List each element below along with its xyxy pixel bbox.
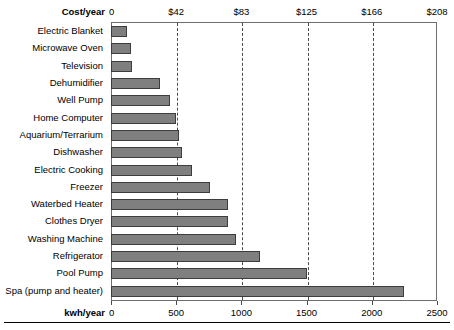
category-label: Spa (pump and heater): [0, 281, 107, 298]
top-tick-label: $83: [233, 6, 249, 17]
table-row: [112, 109, 436, 126]
top-tick-label: $208: [426, 6, 447, 17]
bar: [111, 147, 182, 158]
bottom-tick-label: 1000: [231, 307, 252, 318]
category-label: Microwave Oven: [0, 39, 107, 56]
category-label: Electric Cooking: [0, 160, 107, 177]
bottom-tick-label: 0: [109, 307, 114, 318]
bar: [111, 130, 179, 141]
table-row: [112, 282, 436, 299]
bottom-tickmark: [307, 301, 308, 305]
top-tick-label: 0: [109, 6, 114, 17]
category-label: Electric Blanket: [0, 22, 107, 39]
top-tick-label: $125: [296, 6, 317, 17]
table-row: [112, 40, 436, 57]
bottom-tickmark: [437, 301, 438, 305]
bar: [111, 113, 176, 124]
category-axis-labels: Electric BlanketMicrowave OvenTelevision…: [0, 22, 107, 301]
table-row: [112, 58, 436, 75]
table-row: [112, 248, 436, 265]
bottom-tickmark: [176, 301, 177, 305]
category-label: Dehumidifier: [0, 74, 107, 91]
bottom-tick-label: 2000: [361, 307, 382, 318]
bar: [111, 165, 192, 176]
bottom-tickmark: [241, 301, 242, 305]
bar: [111, 43, 131, 54]
table-row: [112, 196, 436, 213]
category-label: Aquarium/Terrarium: [0, 126, 107, 143]
category-label: Dishwasher: [0, 143, 107, 160]
table-row: [112, 231, 436, 248]
bar-rows: [112, 23, 436, 300]
bottom-tick-label: 500: [168, 307, 184, 318]
category-label: Freezer: [0, 178, 107, 195]
category-label: Pool Pump: [0, 264, 107, 281]
bar: [111, 78, 160, 89]
footer-divider: [4, 322, 450, 323]
bar: [111, 234, 236, 245]
table-row: [112, 161, 436, 178]
bottom-axis-label: kwh/year: [0, 307, 105, 318]
bar: [111, 95, 170, 106]
category-label: Waterbed Heater: [0, 195, 107, 212]
bar: [111, 182, 210, 193]
category-label: Refrigerator: [0, 247, 107, 264]
bar: [111, 199, 228, 210]
bottom-tickmark: [372, 301, 373, 305]
top-tick-label: $42: [168, 6, 184, 17]
category-label: Television: [0, 57, 107, 74]
table-row: [112, 75, 436, 92]
bar: [111, 61, 132, 72]
category-label: Well Pump: [0, 91, 107, 108]
table-row: [112, 179, 436, 196]
chart-figure: Cost/year 0$42$83$125$166$208 Electric B…: [0, 0, 454, 330]
table-row: [112, 92, 436, 109]
top-tick-label: $166: [361, 6, 382, 17]
table-row: [112, 213, 436, 230]
table-row: [112, 127, 436, 144]
table-row: [112, 265, 436, 282]
bar: [111, 26, 127, 37]
category-label: Clothes Dryer: [0, 212, 107, 229]
bar: [111, 216, 228, 227]
bottom-tick-label: 1500: [296, 307, 317, 318]
plot-area: [111, 22, 437, 301]
bottom-tick-label: 2500: [426, 307, 447, 318]
category-label: Washing Machine: [0, 230, 107, 247]
category-label: Home Computer: [0, 108, 107, 125]
table-row: [112, 23, 436, 40]
bottom-tickmark: [111, 301, 112, 305]
bar: [111, 286, 404, 297]
top-axis-label: Cost/year: [0, 6, 105, 17]
bar: [111, 268, 307, 279]
table-row: [112, 144, 436, 161]
bar: [111, 251, 260, 262]
